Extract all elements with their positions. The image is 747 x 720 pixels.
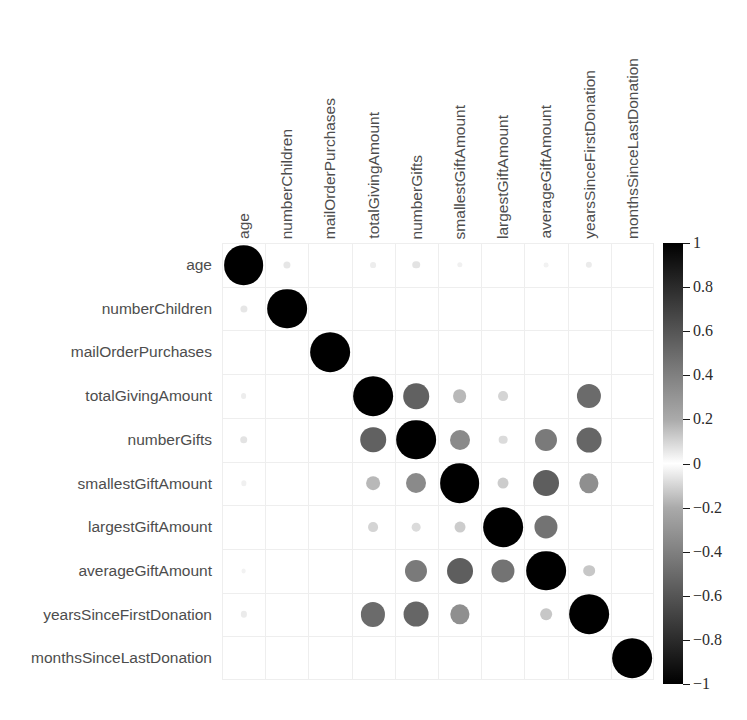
correlation-dot bbox=[498, 435, 507, 444]
correlation-dot bbox=[366, 476, 380, 490]
colorbar-tick bbox=[683, 464, 690, 465]
correlation-dot bbox=[577, 427, 602, 452]
correlation-dot bbox=[404, 383, 430, 409]
correlation-dot bbox=[491, 559, 514, 582]
row-label-averageGiftAmount: averageGiftAmount bbox=[78, 549, 212, 593]
correlation-dot bbox=[310, 332, 350, 372]
row-label-totalGivingAmount: totalGivingAmount bbox=[85, 374, 212, 418]
correlation-dot bbox=[397, 420, 437, 460]
colorbar-gradient bbox=[663, 243, 683, 684]
colorbar-tick bbox=[683, 375, 690, 376]
correlation-dot bbox=[583, 565, 595, 577]
colorbar-tick-label: −1 bbox=[693, 675, 710, 693]
correlation-dot bbox=[440, 463, 480, 503]
correlation-dot bbox=[240, 305, 247, 312]
colorbar-tick-label: −0.4 bbox=[693, 543, 722, 561]
correlation-dot bbox=[586, 262, 592, 268]
correlation-dot bbox=[498, 391, 508, 401]
correlation-dot bbox=[241, 481, 246, 486]
colorbar-tick bbox=[683, 552, 690, 553]
correlation-dot bbox=[405, 560, 427, 582]
correlation-dot bbox=[267, 289, 307, 329]
row-label-largestGiftAmount: largestGiftAmount bbox=[88, 505, 212, 549]
correlation-dot bbox=[360, 427, 386, 453]
row-label-yearsSinceFirstDonation: yearsSinceFirstDonation bbox=[43, 593, 212, 637]
column-label-totalGivingAmount: totalGivingAmount bbox=[352, 112, 395, 239]
correlation-dot bbox=[544, 262, 549, 267]
correlation-dot bbox=[240, 611, 246, 617]
colorbar-tick-label: 0 bbox=[693, 455, 701, 473]
correlation-matrix-plot: agenumberChildrenmailOrderPurchasestotal… bbox=[0, 0, 747, 720]
row-label-numberGifts: numberGifts bbox=[128, 418, 212, 462]
correlation-dot bbox=[454, 522, 465, 533]
correlation-dot bbox=[535, 429, 557, 451]
correlation-dot bbox=[613, 638, 653, 678]
correlation-dot bbox=[361, 602, 385, 626]
column-label-monthsSinceLastDonation: monthsSinceLastDonation bbox=[611, 58, 654, 239]
correlation-dot bbox=[569, 595, 609, 635]
correlation-dot bbox=[370, 262, 376, 268]
correlation-dot bbox=[483, 507, 523, 547]
correlation-cells bbox=[222, 243, 654, 680]
correlation-dot bbox=[224, 245, 264, 285]
colorbar-tick bbox=[683, 331, 690, 332]
colorbar-tick bbox=[683, 596, 690, 597]
row-axis-labels: agenumberChildrenmailOrderPurchasestotal… bbox=[0, 243, 218, 680]
correlation-dot bbox=[526, 551, 566, 591]
correlation-dot bbox=[404, 602, 429, 627]
column-label-averageGiftAmount: averageGiftAmount bbox=[524, 105, 567, 239]
correlation-dot bbox=[577, 384, 601, 408]
correlation-dot bbox=[450, 430, 470, 450]
row-label-mailOrderPurchases: mailOrderPurchases bbox=[71, 330, 212, 374]
column-label-largestGiftAmount: largestGiftAmount bbox=[481, 115, 524, 239]
row-label-age: age bbox=[186, 243, 212, 287]
colorbar-tick bbox=[683, 684, 690, 685]
column-axis-labels: agenumberChildrenmailOrderPurchasestotal… bbox=[222, 0, 654, 243]
column-label-numberChildren: numberChildren bbox=[265, 129, 308, 239]
row-label-monthsSinceLastDonation: monthsSinceLastDonation bbox=[31, 636, 212, 680]
colorbar-tick-label: −0.2 bbox=[693, 499, 722, 517]
column-label-yearsSinceFirstDonation: yearsSinceFirstDonation bbox=[568, 70, 611, 239]
row-label-numberChildren: numberChildren bbox=[102, 287, 212, 331]
colorbar-tick-label: 0.8 bbox=[693, 278, 713, 296]
correlation-dot bbox=[453, 389, 467, 403]
correlation-dot bbox=[283, 261, 290, 268]
correlation-dot bbox=[447, 558, 473, 584]
correlation-dot bbox=[368, 522, 378, 532]
colorbar-tick-label: 0.2 bbox=[693, 410, 713, 428]
correlation-matrix-grid bbox=[222, 243, 654, 680]
correlation-dot bbox=[353, 376, 393, 416]
correlation-dot bbox=[497, 478, 508, 489]
correlation-dot bbox=[534, 516, 557, 539]
colorbar-tick bbox=[683, 243, 690, 244]
colorbar-tick bbox=[683, 287, 690, 288]
colorbar-tick bbox=[683, 640, 690, 641]
colorbar-tick bbox=[683, 419, 690, 420]
colorbar-legend: 10.80.60.40.20−0.2−0.4−0.6−0.8−1 bbox=[663, 243, 747, 684]
column-label-mailOrderPurchases: mailOrderPurchases bbox=[308, 98, 351, 239]
correlation-dot bbox=[412, 523, 421, 532]
correlation-dot bbox=[240, 436, 248, 444]
colorbar-tick-label: 0.6 bbox=[693, 322, 713, 340]
colorbar-tick-label: 0.4 bbox=[693, 366, 713, 384]
column-label-numberGifts: numberGifts bbox=[395, 155, 438, 239]
correlation-dot bbox=[413, 261, 421, 269]
correlation-dot bbox=[580, 474, 599, 493]
correlation-dot bbox=[540, 609, 552, 621]
colorbar-tick-label: 1 bbox=[693, 234, 701, 252]
column-label-smallestGiftAmount: smallestGiftAmount bbox=[438, 105, 481, 239]
correlation-dot bbox=[241, 393, 247, 399]
colorbar-tick bbox=[683, 508, 690, 509]
colorbar-tick-label: −0.6 bbox=[693, 587, 722, 605]
row-label-smallestGiftAmount: smallestGiftAmount bbox=[78, 462, 212, 506]
correlation-dot bbox=[406, 473, 426, 493]
colorbar-tick-label: −0.8 bbox=[693, 631, 722, 649]
correlation-dot bbox=[450, 605, 469, 624]
correlation-dot bbox=[533, 470, 559, 496]
correlation-dot bbox=[241, 568, 246, 573]
correlation-dot bbox=[457, 262, 462, 267]
column-label-age: age bbox=[222, 213, 265, 239]
